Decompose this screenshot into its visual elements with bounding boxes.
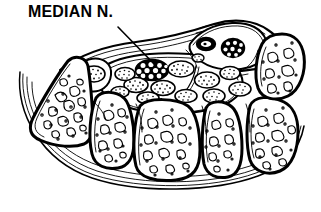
carpal-bone bbox=[30, 57, 93, 146]
carpal-bone bbox=[256, 34, 304, 99]
carpal-tunnel-diagram bbox=[0, 0, 321, 212]
flexor-tendon bbox=[168, 61, 194, 77]
ulnar-artery bbox=[197, 38, 216, 51]
ulnar-nerve bbox=[222, 39, 245, 58]
flexor-tendon bbox=[220, 67, 240, 80]
carpal-bone bbox=[202, 102, 242, 178]
median-nerve-label: MEDIAN N. bbox=[28, 2, 113, 22]
carpal-bone bbox=[134, 100, 200, 181]
anatomical-figure: MEDIAN N. bbox=[0, 0, 321, 212]
flexor-tendon bbox=[195, 72, 220, 88]
flexor-tendon bbox=[115, 68, 135, 81]
carpal-bone bbox=[90, 92, 134, 168]
flexor-tendon bbox=[229, 82, 251, 96]
carpal-bone bbox=[247, 97, 298, 173]
flexor-tendon bbox=[192, 54, 204, 62]
